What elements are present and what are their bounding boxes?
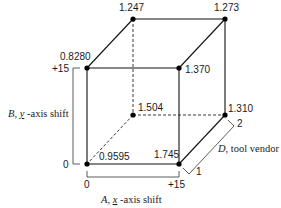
y-axis-low-label: 0: [63, 159, 69, 170]
vertex-label-back-top-right: 1.273: [214, 2, 239, 13]
x-axis-title: A, x -axis shift: [100, 194, 162, 205]
x-axis-bracket: [87, 171, 179, 177]
z-axis-low-label: 1: [196, 166, 202, 177]
y-axis-high-label: +15: [52, 63, 69, 74]
vertex-label-front-top-left: 0.8280: [60, 51, 91, 62]
x-axis-low-label: 0: [84, 179, 90, 190]
edge-top-right-depth: [179, 19, 225, 68]
vertex-dot: [176, 161, 181, 166]
edge-top-left-depth: [87, 19, 133, 68]
vertex-label-back-bottom-right: 1.310: [228, 103, 253, 114]
cube-diagram: 0.8280 1.247 1.273 1.370 1.504 1.310 0.9…: [0, 0, 281, 208]
x-axis-high-label: +15: [168, 179, 185, 190]
vertex-label-back-top-left: 1.247: [119, 2, 144, 13]
z-axis-title: D, tool vendor: [217, 143, 279, 154]
z-axis-high-label: 2: [237, 118, 243, 129]
edge-bottom-right-depth: [179, 115, 225, 164]
vertex-label-back-bottom-left: 1.504: [138, 102, 163, 113]
vertex-dot: [130, 16, 135, 21]
vertex-label-front-top-right: 1.370: [185, 64, 210, 75]
axis-brackets: [73, 68, 234, 177]
vertex-dot: [222, 112, 227, 117]
vertex-dot: [84, 65, 89, 70]
y-axis-title: B, y -axis shift: [8, 108, 69, 119]
vertex-dot: [176, 65, 181, 70]
vertex-dot: [84, 161, 89, 166]
vertex-label-front-bottom-left: 0.9595: [99, 151, 130, 162]
vertex-label-front-bottom-right: 1.745: [154, 149, 179, 160]
vertex-dot: [130, 112, 135, 117]
vertex-dot: [222, 16, 227, 21]
y-axis-bracket: [73, 68, 80, 164]
